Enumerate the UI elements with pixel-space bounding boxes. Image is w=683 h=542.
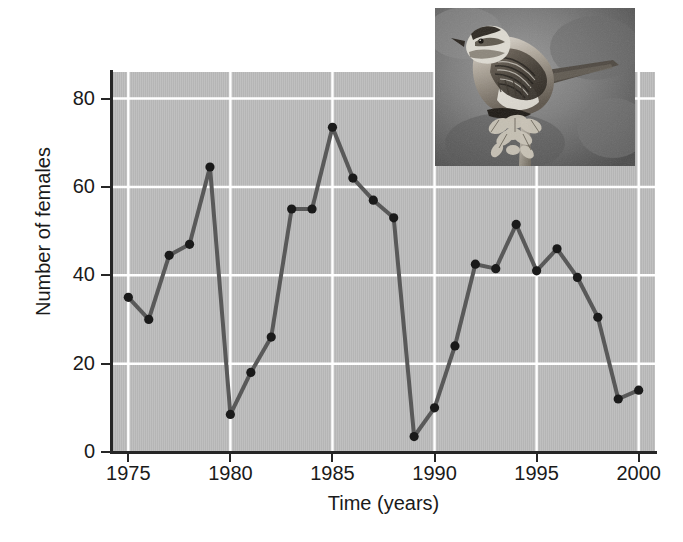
data-point-marker [226,410,235,419]
y-tick-label: 0 [40,441,95,461]
x-tick-mark [331,453,333,462]
data-point-marker [512,220,521,229]
y-tick-mark [101,451,110,453]
data-markers [124,123,644,442]
data-line [128,127,638,436]
x-tick-label: 1980 [190,462,270,484]
data-point-marker [450,341,459,350]
y-tick-mark [101,274,110,276]
data-point-marker [246,368,255,377]
x-tick-mark [434,453,436,462]
x-axis-title: Time (years) [112,492,655,515]
x-tick-label: 1990 [395,462,475,484]
data-point-marker [532,266,541,275]
x-tick-label: 2000 [599,462,679,484]
x-tick-mark [127,453,129,462]
data-point-marker [614,394,623,403]
data-point-marker [144,315,153,324]
sparrow-photo-inset [435,8,635,166]
x-tick-label: 1995 [497,462,577,484]
data-point-marker [491,264,500,273]
data-point-marker [307,204,316,213]
y-tick-mark [101,98,110,100]
data-point-marker [593,313,602,322]
data-point-marker [389,213,398,222]
data-point-marker [430,403,439,412]
data-point-marker [267,333,276,342]
y-axis-title: Number of females [32,102,55,362]
x-tick-label: 1985 [292,462,372,484]
data-point-marker [185,240,194,249]
x-axis-line [110,451,657,454]
figure-container: 020406080 197519801985199019952000 Numbe… [0,0,683,542]
data-point-marker [369,196,378,205]
data-point-marker [205,162,214,171]
y-tick-mark [101,363,110,365]
data-point-marker [328,123,337,132]
x-tick-mark [229,453,231,462]
sparrow-photo-image [435,8,635,166]
data-point-marker [471,260,480,269]
data-point-marker [348,173,357,182]
y-axis-line [110,70,113,454]
x-tick-mark [536,453,538,462]
y-tick-mark [101,186,110,188]
x-tick-mark [638,453,640,462]
data-point-marker [165,251,174,260]
data-point-marker [410,432,419,441]
data-point-marker [634,386,643,395]
data-point-marker [287,204,296,213]
data-point-marker [552,244,561,253]
data-point-marker [124,293,133,302]
data-point-marker [573,273,582,282]
x-tick-label: 1975 [88,462,168,484]
